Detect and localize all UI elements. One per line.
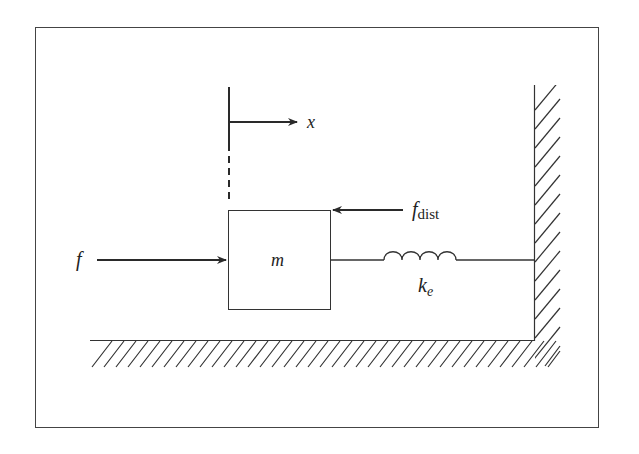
displacement-label: x xyxy=(306,112,315,132)
floor-hatching xyxy=(92,341,560,367)
disturbance-force-label: fdist xyxy=(412,198,440,222)
mass-label: m xyxy=(271,250,284,270)
applied-force-label: f xyxy=(76,248,84,271)
spring-label: ke xyxy=(418,274,433,299)
spring xyxy=(330,252,534,260)
mass-spring-diagram: x m f fdist ke xyxy=(0,0,639,454)
